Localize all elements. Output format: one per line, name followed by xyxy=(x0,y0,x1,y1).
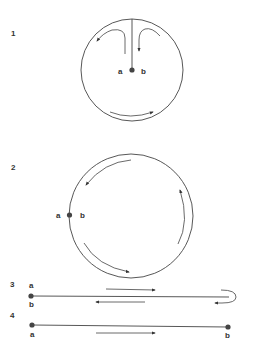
panel-4: 4 a b xyxy=(10,311,231,340)
label-a-2: a xyxy=(56,211,61,220)
point-ab-1 xyxy=(129,67,134,72)
panel-2: 2 a b xyxy=(11,154,193,278)
arrow-left-top-1 xyxy=(97,30,125,54)
panel-1: 1 a b xyxy=(11,19,183,121)
label-b-2: b xyxy=(80,211,85,220)
label-a-3: a xyxy=(29,281,34,290)
label-a-1: a xyxy=(118,67,123,76)
panel-number-2: 2 xyxy=(11,163,16,172)
diagram-canvas: 1 a b 2 a b 3 a b 4 xyxy=(0,0,256,355)
arrow-bottom-2 xyxy=(84,243,129,272)
arrow-bottom-1 xyxy=(110,112,153,116)
panel-number-1: 1 xyxy=(11,29,16,38)
label-a-4: a xyxy=(30,330,35,339)
panel-number-3: 3 xyxy=(10,280,15,289)
folded-line xyxy=(31,296,229,297)
panel-number-4: 4 xyxy=(10,311,15,320)
label-b-4: b xyxy=(225,331,230,340)
arrow-right-2 xyxy=(178,190,185,244)
point-a-4 xyxy=(29,322,34,327)
arrow-right-top-1 xyxy=(139,29,160,51)
arrow-top-2 xyxy=(86,160,131,185)
circle-2 xyxy=(69,154,193,278)
arrow-forward-3 xyxy=(106,289,155,290)
point-ab-3 xyxy=(28,293,33,298)
panel-3: 3 a b xyxy=(10,280,236,309)
label-b-1: b xyxy=(141,67,146,76)
point-ab-2 xyxy=(67,212,72,217)
straight-line xyxy=(32,325,228,327)
point-b-4 xyxy=(225,324,230,329)
label-b-3: b xyxy=(29,300,34,309)
